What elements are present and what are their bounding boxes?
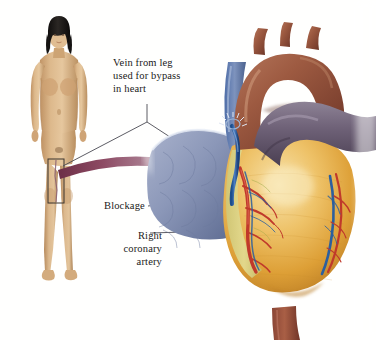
- navel: [57, 109, 61, 115]
- right-knee: [61, 188, 73, 204]
- left-foot: [42, 270, 55, 281]
- left-knee: [44, 188, 56, 204]
- bypass-illustration-figure: Vein from legused for bypassin heart Blo…: [0, 0, 376, 340]
- right-edge-feather: [356, 0, 376, 340]
- right-foot: [65, 270, 78, 280]
- ventricle-highlight: [262, 166, 314, 206]
- label-right-coronary-artery: Rightcoronaryartery: [98, 229, 162, 268]
- label-vein-line3: in heart: [113, 83, 146, 94]
- label-blockage: Blockage: [104, 199, 145, 212]
- right-eye: [62, 34, 65, 36]
- breast-left: [42, 78, 58, 96]
- label-vein-line1: Vein from leg: [113, 57, 173, 68]
- illustration-artwork: [0, 0, 376, 340]
- label-vein-line2: used for bypass: [113, 70, 181, 81]
- right-hand: [80, 130, 87, 142]
- left-hand: [32, 130, 39, 142]
- label-rca-line3: artery: [137, 256, 162, 267]
- label-rca-line2: coronary: [123, 243, 162, 254]
- left-eye: [54, 34, 57, 36]
- label-vein-from-leg: Vein from legused for bypassin heart: [113, 56, 181, 95]
- label-rca-line1: Right: [138, 230, 162, 241]
- lung-body: [147, 130, 236, 240]
- pelvis-shadow: [55, 147, 63, 153]
- inferior-vena-cava: [272, 306, 300, 340]
- breast-right: [60, 78, 76, 96]
- neck: [53, 48, 65, 58]
